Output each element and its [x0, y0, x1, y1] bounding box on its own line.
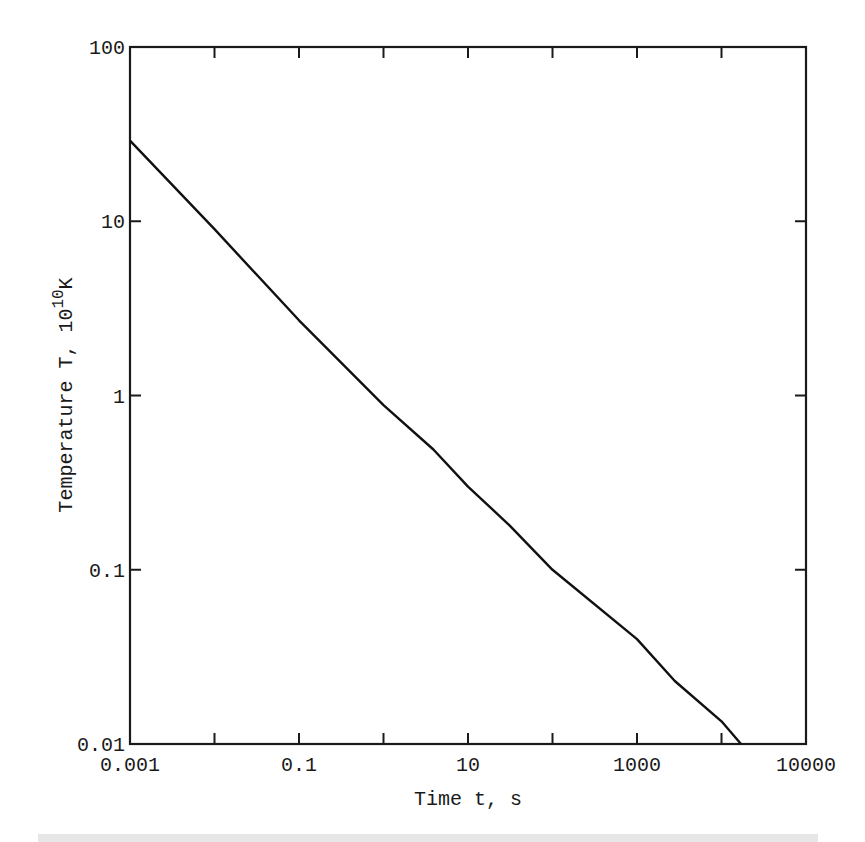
- y-axis-title-unit: K: [55, 277, 78, 289]
- y-tick-label: 1: [113, 386, 125, 409]
- y-tick-label: 10: [101, 211, 125, 234]
- plot-frame: [130, 47, 806, 744]
- x-tick-label: 0.1: [281, 754, 317, 777]
- y-tick-label: 0.01: [77, 734, 125, 757]
- x-tick-label: 10: [456, 754, 480, 777]
- y-axis-title: Temperature T, 1010K: [50, 277, 78, 512]
- x-axis-title: Time t, s: [414, 788, 522, 811]
- y-axis-title-exponent: 10: [50, 289, 68, 308]
- y-tick-label: 0.1: [89, 560, 125, 583]
- caption-cutoff: [38, 834, 818, 842]
- chart: 0.0010.1101000100001001010.10.01 Time t,…: [0, 0, 865, 842]
- y-axis-title-main: Temperature T, 10: [55, 309, 78, 513]
- svg-text:Temperature T, 1010K: Temperature T, 1010K: [50, 277, 78, 512]
- series-line-temperature: [130, 141, 741, 744]
- y-tick-label: 100: [89, 37, 125, 60]
- x-tick-label: 10000: [776, 754, 836, 777]
- x-tick-label: 0.001: [100, 754, 160, 777]
- x-tick-label: 1000: [613, 754, 661, 777]
